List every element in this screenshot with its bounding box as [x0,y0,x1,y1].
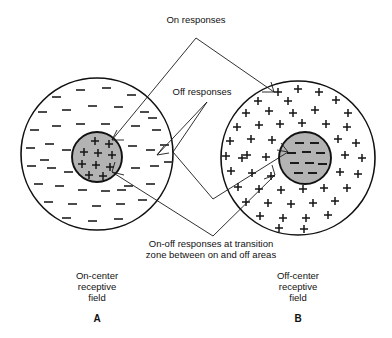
figure-canvas: On responses Off responses On-off respon… [0,0,392,338]
panel-a-caption-line3: field [47,292,147,304]
panel-a-caption-line2: receptive [47,281,147,293]
panel-a-group [21,78,173,230]
label-off-responses: Off responses [156,86,248,98]
label-on-responses: On responses [144,14,248,26]
panel-b-inner-circle [279,132,331,184]
panel-a-inner-circle [72,132,122,182]
label-on-off-responses-line2: zone between on and off areas [104,249,318,261]
panel-b-letter: B [248,313,348,325]
label-on-off-responses-line1: On-off responses at transition [104,238,318,250]
panel-b-caption-line2: receptive [248,281,348,293]
panel-b-caption-line3: field [248,292,348,304]
panel-a-letter: A [47,313,147,325]
panel-b-group [221,81,375,235]
panel-a-caption-line1: On-center [47,270,147,282]
panel-b-caption-line1: Off-center [248,270,348,282]
